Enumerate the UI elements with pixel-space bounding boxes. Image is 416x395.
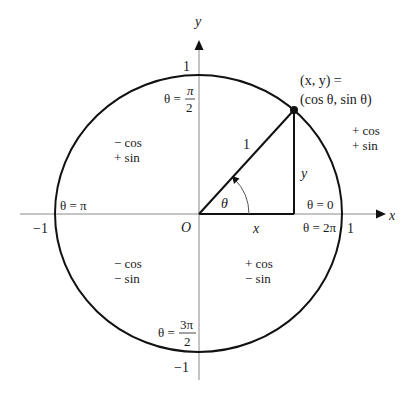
origin-label: O (181, 220, 191, 235)
angle-bottom-prefix: θ = (158, 325, 175, 340)
angle-top-prefix: θ = (164, 91, 181, 106)
unit-circle-diagram: y x O 1 −1 −1 1 θ = π 2 θ = π θ = 0 θ = … (0, 0, 416, 395)
hypotenuse-label: 1 (243, 137, 250, 152)
q3-sin-sign: − sin (114, 271, 140, 286)
y-axis-arrow-icon (195, 40, 204, 50)
angle-bottom-den: 2 (184, 334, 191, 349)
x-axis-arrow-icon (376, 210, 386, 219)
point-on-circle (290, 106, 298, 114)
angle-theta-label: θ (221, 196, 228, 211)
tick-pos-y: 1 (183, 59, 190, 74)
angle-arc (235, 179, 250, 214)
angle-top-num: π (187, 83, 194, 98)
angle-bottom-num: 3π (180, 317, 194, 332)
y-axis-label: y (193, 14, 202, 29)
adjacent-label: x (252, 221, 260, 236)
tick-neg-y: −1 (174, 360, 189, 375)
q1-sin-sign: + sin (352, 138, 378, 153)
angle-top-den: 2 (186, 100, 193, 115)
tick-neg-x: −1 (33, 221, 48, 236)
point-label-line2: (cos θ, sin θ) (300, 92, 372, 108)
tick-pos-x: 1 (347, 221, 354, 236)
point-label-line1: (x, y) = (300, 73, 342, 89)
q3-cos-sign: − cos (114, 256, 142, 271)
q4-cos-sign: + cos (245, 256, 273, 271)
angle-right-top: θ = 0 (307, 197, 334, 212)
angle-left: θ = π (60, 198, 87, 213)
q4-sin-sign: − sin (245, 271, 271, 286)
q1-cos-sign: + cos (352, 123, 380, 138)
angle-right-bottom: θ = 2π (303, 220, 337, 235)
q2-sin-sign: + sin (114, 150, 140, 165)
q2-cos-sign: − cos (114, 135, 142, 150)
opposite-label: y (299, 166, 308, 181)
x-axis-label: x (388, 208, 396, 223)
